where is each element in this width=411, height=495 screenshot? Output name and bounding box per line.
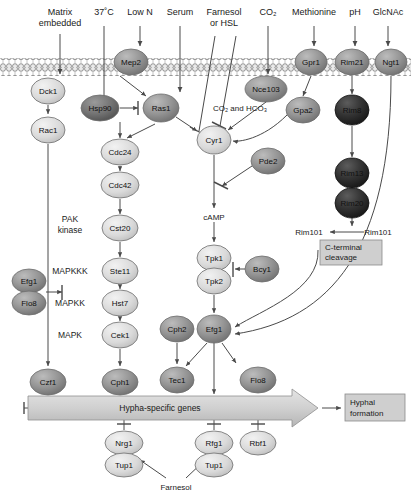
node-cph1[interactable]: Cph1 — [102, 369, 138, 395]
node-czf1[interactable]: Czf1 — [30, 369, 66, 395]
node-label-flo8-bottom: Flo8 — [250, 376, 266, 385]
node-rfg1[interactable]: Rfg1 — [195, 431, 233, 455]
pathway-diagram-canvas: Hypha-specific genes C-terminal cleavage… — [0, 0, 411, 495]
node-label-czf1: Czf1 — [40, 378, 57, 387]
cascade-tier-labels: PAK kinase MAPKKK MAPKK MAPK — [52, 214, 88, 340]
stimulus-labels: Matrix embedded 37˚C Low N Serum Farneso… — [39, 7, 404, 28]
node-pde2[interactable]: Pde2 — [251, 148, 285, 174]
node-cph2[interactable]: Cph2 — [160, 316, 194, 342]
node-label-rim20: Rim20 — [340, 199, 364, 208]
pathway-svg: Hypha-specific genes C-terminal cleavage… — [0, 0, 411, 495]
node-flo8-top[interactable]: Flo8 — [12, 291, 46, 315]
node-label-cst20: Cst20 — [110, 224, 131, 233]
node-rbf1[interactable]: Rbf1 — [240, 431, 276, 455]
node-cst20[interactable]: Cst20 — [102, 215, 138, 241]
node-flo8-bottom[interactable]: Flo8 — [240, 367, 276, 393]
node-ste11[interactable]: Ste11 — [102, 258, 138, 284]
stimulus-glcnac: GlcNAc — [373, 7, 404, 17]
node-label-dck1: Dck1 — [39, 87, 58, 96]
node-tup1-right[interactable]: Tup1 — [195, 453, 233, 477]
stimulus-farnesol-line2: or HSL — [210, 18, 238, 28]
node-label-cdc42: Cdc42 — [108, 181, 132, 190]
node-gpa2[interactable]: Gpa2 — [286, 97, 320, 123]
node-label-hsp90: Hsp90 — [88, 104, 112, 113]
node-efg1-main[interactable]: Efg1 — [197, 315, 231, 343]
node-label-ras1: Ras1 — [152, 104, 171, 113]
stimulus-matrix-line1: Matrix — [48, 7, 73, 17]
stimulus-farnesol-line1: Farnesol — [206, 7, 241, 17]
node-label-cyr1: Cyr1 — [206, 136, 223, 145]
pak-kinase-line1: PAK — [62, 214, 79, 224]
c-terminal-cleavage-box: C-terminal cleavage — [320, 240, 382, 265]
hyphal-formation-line2: formation — [350, 409, 383, 418]
stimulus-serum: Serum — [167, 7, 194, 17]
node-rim13[interactable]: Rim13 — [335, 158, 369, 188]
mapkk-label: MAPKK — [55, 298, 85, 308]
farnesol-bottom-label: Farnesol — [160, 483, 191, 492]
node-label-gpa2: Gpa2 — [293, 106, 313, 115]
node-ngt1[interactable]: Ngt1 — [375, 49, 407, 75]
node-label-rfg1: Rfg1 — [206, 439, 223, 448]
node-label-tpk2: Tpk2 — [205, 277, 223, 286]
node-mep2[interactable]: Mep2 — [114, 49, 148, 75]
node-label-ste11: Ste11 — [110, 267, 131, 276]
node-ras1[interactable]: Ras1 — [143, 94, 179, 122]
node-label-pde2: Pde2 — [259, 157, 278, 166]
mapk-label: MAPK — [58, 330, 82, 340]
node-label-tpk1: Tpk1 — [205, 254, 223, 263]
node-label-cek1: Cek1 — [111, 331, 130, 340]
node-tec1[interactable]: Tec1 — [160, 367, 194, 393]
node-hst7[interactable]: Hst7 — [102, 290, 138, 316]
node-hsp90[interactable]: Hsp90 — [81, 95, 119, 121]
node-label-bcy1: Bcy1 — [253, 265, 271, 274]
node-tup1-left[interactable]: Tup1 — [105, 453, 143, 477]
node-label-gpr1: Gpr1 — [302, 58, 320, 67]
node-label-rbf1: Rbf1 — [250, 439, 267, 448]
stimulus-co2: CO₂ — [260, 7, 278, 17]
stimulus-temperature: 37˚C — [94, 7, 114, 17]
stimulus-low-nitrogen: Low N — [127, 7, 153, 17]
rim101-cleaved-label: Rim101 — [295, 228, 323, 237]
node-cyr1[interactable]: Cyr1 — [197, 126, 231, 154]
node-label-efg1-top: Efg1 — [21, 277, 38, 286]
node-cek1[interactable]: Cek1 — [102, 322, 138, 348]
hyphal-formation-box: Hyphal formation — [345, 394, 405, 421]
node-nrg1[interactable]: Nrg1 — [105, 431, 143, 455]
node-rim20[interactable]: Rim20 — [335, 188, 369, 218]
node-label-rac1: Rac1 — [39, 126, 58, 135]
node-label-cdc24: Cdc24 — [108, 148, 132, 157]
c-terminal-cleavage-line2: cleavage — [325, 253, 358, 262]
rim101-full-label: Rim101 — [364, 228, 392, 237]
node-tpk2[interactable]: Tpk2 — [197, 268, 231, 294]
node-rim8[interactable]: Rim8 — [335, 95, 369, 125]
node-label-rim21: Rim21 — [340, 58, 364, 67]
node-rim21[interactable]: Rim21 — [335, 49, 369, 75]
node-label-tup1-right: Tup1 — [205, 461, 223, 470]
mapkkk-label: MAPKKK — [52, 266, 88, 276]
node-label-cph2: Cph2 — [167, 325, 187, 334]
node-label-rim8: Rim8 — [343, 106, 362, 115]
stimulus-matrix-line2: embedded — [39, 18, 82, 28]
node-cdc42[interactable]: Cdc42 — [101, 172, 139, 198]
node-label-nce103: Nce103 — [252, 85, 280, 94]
c-terminal-cleavage-line1: C-terminal — [325, 243, 362, 252]
node-cdc24[interactable]: Cdc24 — [101, 139, 139, 165]
stimulus-methionine: Methionine — [292, 7, 336, 17]
node-rac1[interactable]: Rac1 — [31, 117, 65, 143]
node-tpk1[interactable]: Tpk1 — [197, 245, 231, 271]
node-nce103[interactable]: Nce103 — [245, 76, 287, 102]
node-bcy1[interactable]: Bcy1 — [245, 256, 279, 282]
node-label-nrg1: Nrg1 — [115, 439, 133, 448]
co2-hco3-label: CO₂ and HCO₃ — [213, 104, 267, 113]
node-gpr1[interactable]: Gpr1 — [295, 49, 327, 75]
hypha-specific-genes-arrow: Hypha-specific genes — [28, 389, 318, 427]
node-label-mep2: Mep2 — [121, 58, 142, 67]
node-label-efg1-main: Efg1 — [206, 325, 223, 334]
node-label-tup1-left: Tup1 — [115, 461, 133, 470]
node-label-tec1: Tec1 — [169, 376, 186, 385]
node-label-flo8-top: Flo8 — [21, 299, 37, 308]
node-efg1-top[interactable]: Efg1 — [12, 269, 46, 293]
node-label-hst7: Hst7 — [112, 299, 129, 308]
node-dck1[interactable]: Dck1 — [31, 78, 65, 104]
node-label-ngt1: Ngt1 — [383, 58, 400, 67]
